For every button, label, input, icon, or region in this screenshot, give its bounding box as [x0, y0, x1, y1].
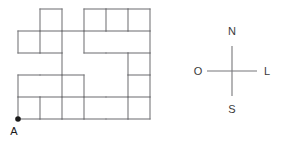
compass-rose: N S O L — [194, 25, 270, 115]
compass-south-label: S — [228, 103, 235, 115]
compass-west-label: O — [194, 65, 203, 77]
point-a-marker — [15, 116, 21, 122]
compass-north-label: N — [228, 25, 236, 37]
point-a-label: A — [10, 125, 18, 137]
compass-east-label: L — [264, 65, 270, 77]
diagram-svg: A N S O L — [0, 0, 288, 142]
figure-canvas: A N S O L — [0, 0, 288, 142]
grid-vertical-segments — [18, 9, 150, 119]
